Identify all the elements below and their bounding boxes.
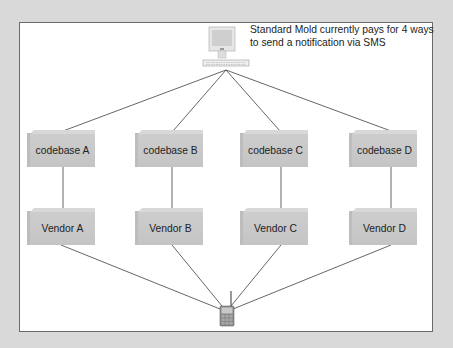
computer-icon bbox=[202, 26, 250, 68]
edge-vendor-b-phone bbox=[172, 245, 222, 306]
codebase-d-box: codebase D bbox=[349, 130, 417, 167]
vendor-d-label: Vendor D bbox=[352, 212, 417, 245]
mobile-phone-icon bbox=[218, 290, 236, 327]
vendor-b-label: Vendor B bbox=[138, 212, 203, 245]
codebase-c-box: codebase C bbox=[240, 130, 308, 167]
vendor-a-label: Vendor A bbox=[30, 212, 95, 245]
vendor-d-box: Vendor D bbox=[349, 208, 417, 245]
vendor-c-box: Vendor C bbox=[240, 208, 308, 245]
vendor-c-label: Vendor C bbox=[243, 212, 308, 245]
codebase-b-box: codebase B bbox=[135, 130, 203, 167]
codebase-a-box: codebase A bbox=[27, 130, 95, 167]
edge-computer-codebase-c bbox=[226, 70, 280, 131]
diagram-caption: Standard Mold currently pays for 4 ways … bbox=[250, 24, 435, 49]
edge-vendor-c-phone bbox=[231, 245, 281, 306]
codebase-a-label: codebase A bbox=[30, 134, 95, 167]
edge-computer-codebase-d bbox=[226, 70, 391, 131]
edge-computer-codebase-b bbox=[173, 70, 226, 131]
edge-vendor-d-phone bbox=[233, 245, 391, 309]
codebase-c-label: codebase C bbox=[243, 134, 308, 167]
edge-vendor-a-phone bbox=[61, 245, 220, 309]
vendor-b-box: Vendor B bbox=[135, 208, 203, 245]
codebase-b-label: codebase B bbox=[138, 134, 203, 167]
edge-computer-codebase-a bbox=[63, 70, 226, 131]
vendor-a-box: Vendor A bbox=[27, 208, 95, 245]
codebase-d-label: codebase D bbox=[352, 134, 417, 167]
